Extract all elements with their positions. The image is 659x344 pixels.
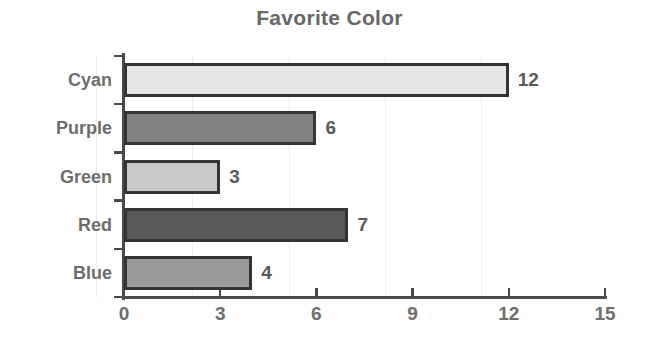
bar-red	[124, 208, 348, 242]
category-label-cyan: Cyan	[4, 70, 112, 91]
y-axis-tick	[114, 55, 123, 58]
x-axis-tick-label: 6	[286, 303, 346, 325]
bar-chart: Favorite Color CyanPurpleGreenRedBlue 12…	[0, 0, 659, 344]
bar-value-blue: 4	[261, 262, 272, 284]
bar-cyan	[124, 63, 509, 97]
bar-value-red: 7	[357, 214, 368, 236]
x-axis-tick-label: 12	[479, 303, 539, 325]
bar-blue	[124, 256, 252, 290]
x-axis-tick-label: 9	[383, 303, 443, 325]
y-axis-tick	[114, 199, 123, 202]
bar-value-cyan: 12	[518, 69, 539, 91]
category-label-red: Red	[4, 214, 112, 235]
bar-green	[124, 160, 220, 194]
y-axis-tick	[114, 151, 123, 154]
category-label-purple: Purple	[4, 118, 112, 139]
x-axis-tick-label: 3	[190, 303, 250, 325]
y-axis-tick	[114, 296, 123, 299]
category-axis-labels: CyanPurpleGreenRedBlue	[0, 0, 112, 344]
plot-area	[124, 56, 605, 297]
x-axis-tick-label: 15	[575, 303, 635, 325]
x-axis-tick-label: 0	[94, 303, 154, 325]
bar-purple	[124, 111, 316, 145]
category-label-green: Green	[4, 166, 112, 187]
y-axis-tick	[114, 248, 123, 251]
bar-value-purple: 6	[325, 117, 336, 139]
bar-value-green: 3	[229, 166, 240, 188]
category-label-blue: Blue	[4, 262, 112, 283]
y-axis-tick	[114, 103, 123, 106]
